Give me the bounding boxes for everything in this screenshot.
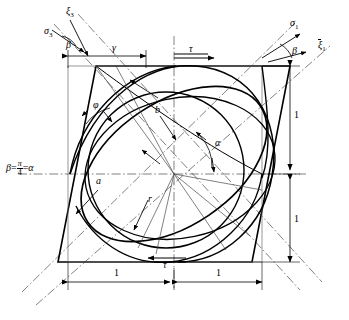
label-beta-left: β [66, 40, 71, 50]
label-beta-right: β [292, 46, 297, 56]
diagonal-arc-a [96, 66, 262, 174]
label-a: a [96, 176, 101, 186]
label-xi3: ξ3 [66, 6, 74, 19]
label-r: r [148, 194, 152, 204]
axis-sigma1 [22, 22, 296, 292]
axis-sigma3 [54, 24, 300, 290]
alpha-arc [200, 136, 212, 168]
label-b: b [155, 105, 160, 115]
label-alpha: α [215, 138, 220, 148]
label-sigma1: σ1 [290, 18, 298, 31]
dimension-right-upper: 1 [294, 110, 299, 120]
beta-legs-right [262, 34, 306, 62]
label-gamma: γ [112, 43, 116, 53]
tau-top-arrow [174, 54, 214, 58]
beta-legs-left [52, 20, 88, 56]
label-sigma3: σ3 [44, 26, 52, 39]
leader-center-ray [142, 150, 160, 164]
label-tau-bottom: τ [163, 260, 167, 270]
label-xi1: ξ1 [318, 40, 326, 53]
dimension-bottom-right: 1 [216, 268, 221, 278]
label-tau-top: τ [189, 44, 193, 54]
label-phi: φ [93, 100, 99, 110]
dimension-right-lower: 1 [294, 214, 299, 224]
deformed-oval [72, 80, 289, 257]
bent-curve-right [262, 66, 268, 178]
dimension-bottom-left: 1 [114, 268, 119, 278]
phi-arc [86, 108, 110, 124]
right-dimensions [252, 66, 300, 262]
leader-r [134, 200, 148, 230]
diagram-canvas: ξ3 σ3 β σ1 ξ1 β γ τ τ φ α b a r β=π4=α 1… [0, 0, 349, 320]
equation-beta-pi4-alpha: β=π4=α [6, 160, 34, 177]
leader-b-down [160, 116, 176, 140]
radial-rays [96, 66, 262, 254]
